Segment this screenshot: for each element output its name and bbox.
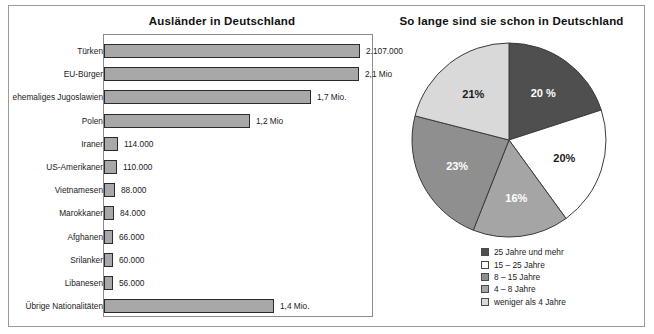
- bar-category-label: Afghanen: [67, 232, 103, 242]
- bar-value-label: 88.000: [115, 185, 146, 195]
- bar-track: [104, 90, 311, 104]
- bar-category-label: Srilanker: [70, 255, 103, 265]
- legend-label: weniger als 4 Jahre: [494, 297, 566, 307]
- pie-slice-label: 23%: [446, 160, 468, 172]
- bar-row: Polen1,2 Mio: [9, 110, 377, 132]
- bar-row: Srilanker60.000: [9, 249, 377, 271]
- bar-track: [104, 276, 113, 290]
- pie-chart-legend: 25 Jahre und mehr15 – 25 Jahre8 – 15 Jah…: [481, 246, 646, 308]
- bar-fill: [104, 90, 311, 104]
- bar-row: ehemaliges Jugoslawien1,7 Mio.: [9, 86, 377, 108]
- legend-item: 4 – 8 Jahre: [481, 283, 646, 295]
- legend-swatch: [481, 298, 489, 306]
- legend-label: 4 – 8 Jahre: [494, 284, 536, 294]
- bar-row: Marokkaner84.000: [9, 202, 377, 224]
- pie-svg: [409, 40, 609, 240]
- legend-item: 8 – 15 Jahre: [481, 271, 646, 283]
- bar-row: US-Amerikaner110.000: [9, 156, 377, 178]
- bar-track: [104, 67, 359, 81]
- legend-item: 25 Jahre und mehr: [481, 246, 646, 258]
- bar-category-label: Polen: [82, 116, 103, 126]
- bar-row: Afghanen66.000: [9, 226, 377, 248]
- legend-swatch: [481, 285, 489, 293]
- bar-category-label: Iraner: [81, 139, 103, 149]
- pie-slice-label: 16%: [505, 192, 527, 204]
- bar-category-label: Türken: [77, 46, 103, 56]
- bar-fill: [104, 253, 113, 267]
- bar-fill: [104, 114, 250, 128]
- legend-item: weniger als 4 Jahre: [481, 296, 646, 308]
- bar-fill: [104, 44, 360, 58]
- bar-value-label: 114.000: [118, 139, 153, 149]
- legend-swatch: [481, 261, 489, 269]
- legend-label: 8 – 15 Jahre: [494, 272, 540, 282]
- bar-track: [104, 183, 115, 197]
- bar-chart-panel: Ausländer in Deutschland Türken2.107.000…: [9, 6, 377, 326]
- bar-category-label: Vietnamesen: [55, 185, 103, 195]
- bar-row: Übrige Nationalitäten1,4 Mio.: [9, 295, 377, 317]
- bar-fill: [104, 230, 113, 244]
- legend-label: 15 – 25 Jahre: [494, 260, 545, 270]
- bar-track: [104, 137, 118, 151]
- legend-label: 25 Jahre und mehr: [494, 247, 564, 257]
- bar-track: [104, 299, 274, 313]
- bar-category-label: Übrige Nationalitäten: [26, 301, 103, 311]
- bar-fill: [104, 206, 114, 220]
- bar-fill: [104, 183, 115, 197]
- bar-row: Vietnamesen88.000: [9, 179, 377, 201]
- legend-swatch: [481, 273, 489, 281]
- pie-chart-graphic: 20 %20%16%23%21%: [409, 40, 609, 240]
- bar-fill: [104, 160, 117, 174]
- bar-fill: [104, 299, 274, 313]
- bar-category-label: Libanesen: [65, 278, 103, 288]
- bar-fill: [104, 137, 118, 151]
- bar-track: [104, 253, 113, 267]
- bar-chart-title: Ausländer in Deutschland: [87, 15, 357, 27]
- bar-value-label: 1,7 Mio.: [311, 92, 347, 102]
- bar-value-label: 84.000: [114, 208, 145, 218]
- bar-fill: [104, 276, 113, 290]
- bar-track: [104, 230, 113, 244]
- bar-row: EU-Bürger2,1 Mio: [9, 63, 377, 85]
- bar-category-label: EU-Bürger: [64, 69, 103, 79]
- bar-row: Türken2.107.000: [9, 40, 377, 62]
- bar-row: Iraner114.000: [9, 133, 377, 155]
- bar-value-label: 110.000: [117, 162, 152, 172]
- pie-slice-label: 20 %: [531, 87, 556, 99]
- bar-value-label: 66.000: [113, 232, 144, 242]
- bar-category-label: Marokkaner: [59, 208, 103, 218]
- pie-chart-title: So lange sind sie schon in Deutschland: [377, 15, 646, 27]
- legend-swatch: [481, 248, 489, 256]
- bar-track: [104, 206, 114, 220]
- bar-value-label: 1,4 Mio.: [274, 301, 310, 311]
- bar-value-label: 60.000: [113, 255, 144, 265]
- bar-track: [104, 114, 250, 128]
- pie-slice-label: 21%: [462, 88, 484, 100]
- bar-track: [104, 44, 360, 58]
- bar-track: [104, 160, 117, 174]
- bar-value-label: 56.000: [113, 278, 144, 288]
- bar-category-label: ehemaliges Jugoslawien: [13, 92, 103, 102]
- pie-slice-label: 20%: [553, 152, 575, 164]
- poster-frame: Ausländer in Deutschland Türken2.107.000…: [8, 5, 645, 327]
- pie-chart-panel: So lange sind sie schon in Deutschland 2…: [377, 6, 646, 326]
- bar-fill: [104, 67, 359, 81]
- bar-row: Libanesen56.000: [9, 272, 377, 294]
- bar-category-label: US-Amerikaner: [46, 162, 103, 172]
- bar-value-label: 1,2 Mio: [250, 116, 283, 126]
- legend-item: 15 – 25 Jahre: [481, 258, 646, 270]
